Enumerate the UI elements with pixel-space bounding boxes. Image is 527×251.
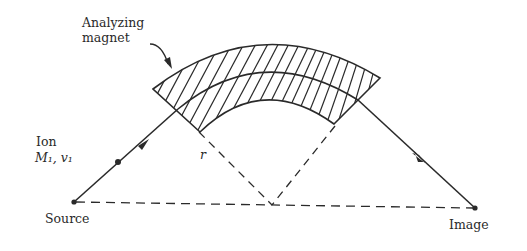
- image-label: Image: [449, 218, 489, 232]
- source-label: Source: [45, 212, 90, 226]
- ion-mass-velocity-label: M₁, v₁: [35, 151, 73, 165]
- magnet-label-line1: Analyzing: [82, 16, 144, 30]
- magnet-hatching: [110, 10, 390, 160]
- radius-left-dashed: [199, 132, 272, 205]
- diagram-canvas: Analyzing magnet Ion M₁, v₁ r Source Ima…: [0, 0, 527, 251]
- magnet-label-line2: magnet: [82, 31, 130, 45]
- ion-path-arc: [178, 72, 358, 109]
- radius-label: r: [200, 148, 206, 162]
- arrow-outgoing-icon: [412, 151, 425, 163]
- source-dot: [71, 199, 76, 204]
- ion-dot: [115, 159, 121, 165]
- image-dot: [472, 205, 477, 210]
- baseline-dashed: [76, 202, 473, 208]
- ion-path-incoming: [74, 109, 178, 202]
- radius-right-dashed: [272, 126, 335, 205]
- ion-label: Ion: [36, 135, 57, 149]
- magnet-pointer-arrowhead-icon: [164, 57, 172, 69]
